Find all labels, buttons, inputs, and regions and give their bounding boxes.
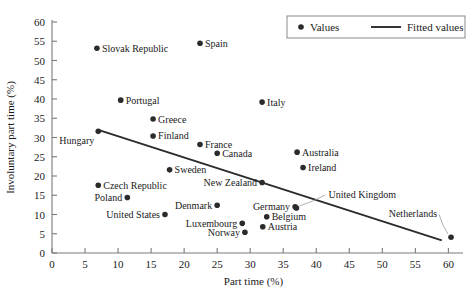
x-tick-label: 35 bbox=[278, 258, 290, 270]
point-label-hungary: Hungary bbox=[59, 135, 94, 146]
data-point[interactable] bbox=[162, 212, 168, 218]
data-point[interactable] bbox=[95, 129, 101, 135]
point-label-portugal: Portugal bbox=[126, 95, 160, 106]
data-point[interactable] bbox=[167, 167, 173, 173]
x-tick-label: 45 bbox=[344, 258, 356, 270]
data-point[interactable] bbox=[150, 133, 156, 139]
legend-label-fitted: Fitted values bbox=[407, 21, 464, 33]
point-label-spain: Spain bbox=[205, 38, 228, 49]
point-label-norway: Norway bbox=[208, 227, 240, 238]
data-point[interactable] bbox=[294, 205, 300, 211]
data-point[interactable] bbox=[294, 149, 300, 155]
y-tick-label: 50 bbox=[34, 55, 46, 67]
x-tick-label: 15 bbox=[146, 258, 158, 270]
x-tick-label: 55 bbox=[410, 258, 422, 270]
data-point[interactable] bbox=[259, 180, 265, 186]
point-label-italy: Italy bbox=[267, 97, 285, 108]
x-tick-label: 60 bbox=[443, 258, 455, 270]
data-point[interactable] bbox=[242, 229, 248, 235]
point-label-poland: Poland bbox=[95, 192, 123, 203]
x-tick-label: 0 bbox=[49, 258, 55, 270]
y-tick-label: 35 bbox=[34, 112, 46, 124]
data-point[interactable] bbox=[448, 234, 454, 240]
data-point[interactable] bbox=[94, 45, 100, 51]
point-label-united-kingdom: United Kingdom bbox=[328, 189, 396, 200]
point-label-netherlands: Netherlands bbox=[389, 208, 437, 219]
data-point[interactable] bbox=[264, 214, 270, 220]
point-label-australia: Australia bbox=[302, 147, 339, 158]
point-label-slovak-republic: Slovak Republic bbox=[102, 43, 169, 54]
data-point[interactable] bbox=[118, 97, 124, 103]
data-point[interactable] bbox=[197, 40, 203, 46]
point-label-austria: Austria bbox=[268, 221, 298, 232]
scatter-chart: 0510152025303540455055600510152025303540… bbox=[0, 0, 476, 304]
legend-label-values: Values bbox=[310, 21, 339, 33]
data-point[interactable] bbox=[150, 116, 156, 122]
x-tick-label: 10 bbox=[113, 258, 125, 270]
point-label-greece: Greece bbox=[158, 114, 187, 125]
y-tick-label: 45 bbox=[34, 74, 46, 86]
legend-marker-values bbox=[298, 24, 304, 30]
y-tick-label: 5 bbox=[40, 228, 46, 240]
data-point[interactable] bbox=[125, 195, 131, 201]
x-axis-title: Part time (%) bbox=[224, 275, 284, 288]
x-tick-label: 20 bbox=[179, 258, 191, 270]
data-point[interactable] bbox=[214, 202, 220, 208]
y-tick-label: 30 bbox=[34, 132, 46, 144]
point-label-denmark: Denmark bbox=[175, 200, 212, 211]
y-tick-label: 25 bbox=[34, 151, 46, 163]
point-label-finland: Finland bbox=[158, 130, 189, 141]
y-tick-label: 60 bbox=[34, 16, 46, 28]
leader-line bbox=[439, 214, 448, 234]
y-tick-label: 40 bbox=[34, 93, 46, 105]
data-point[interactable] bbox=[214, 150, 220, 156]
y-tick-label: 20 bbox=[34, 170, 46, 182]
data-point[interactable] bbox=[260, 224, 266, 230]
y-tick-label: 55 bbox=[34, 35, 46, 47]
point-label-united-states: United States bbox=[106, 209, 160, 220]
data-point[interactable] bbox=[95, 182, 101, 188]
point-label-ireland: Ireland bbox=[308, 162, 336, 173]
data-point[interactable] bbox=[259, 99, 265, 105]
data-point[interactable] bbox=[300, 165, 306, 171]
x-tick-label: 40 bbox=[311, 258, 323, 270]
data-point[interactable] bbox=[239, 221, 245, 227]
x-tick-label: 30 bbox=[245, 258, 257, 270]
point-label-sweden: Sweden bbox=[175, 164, 207, 175]
y-tick-label: 15 bbox=[34, 189, 46, 201]
x-tick-label: 50 bbox=[377, 258, 389, 270]
point-label-czech-republic: Czech Republic bbox=[103, 180, 167, 191]
point-label-canada: Canada bbox=[222, 148, 253, 159]
data-point[interactable] bbox=[197, 142, 203, 148]
y-tick-label: 10 bbox=[34, 209, 46, 221]
plot-area: 0510152025303540455055600510152025303540… bbox=[0, 0, 476, 304]
x-tick-label: 25 bbox=[212, 258, 224, 270]
point-label-new-zealand: New Zealand bbox=[203, 177, 257, 188]
x-tick-label: 5 bbox=[82, 258, 88, 270]
y-tick-label: 0 bbox=[40, 247, 46, 259]
y-axis-title: Involuntary part time (%) bbox=[4, 81, 17, 194]
